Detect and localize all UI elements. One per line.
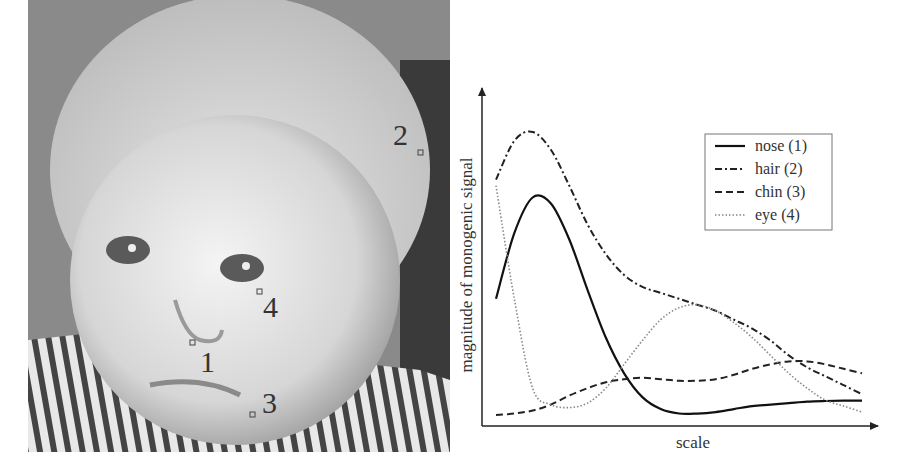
legend-label: eye (4)	[755, 206, 800, 224]
svg-text:3: 3	[262, 386, 277, 419]
svg-text:4: 4	[263, 290, 278, 323]
legend-label: chin (3)	[755, 183, 805, 201]
left-eye	[106, 236, 150, 264]
legend-label: nose (1)	[755, 137, 807, 155]
series-line-chin	[496, 361, 862, 415]
y-axis-label: magnitude of monogenic signal	[457, 157, 476, 372]
right-eye	[220, 254, 264, 282]
monogenic-signal-chart: scale magnitude of monogenic signal nose…	[450, 80, 890, 460]
legend: nose (1)hair (2)chin (3)eye (4)	[705, 134, 832, 230]
baby-face-photo: 1 2 3 4	[28, 0, 450, 452]
legend-label: hair (2)	[755, 160, 803, 178]
x-axis-label: scale	[676, 433, 710, 452]
svg-text:1: 1	[200, 345, 215, 378]
svg-text:2: 2	[393, 118, 408, 151]
